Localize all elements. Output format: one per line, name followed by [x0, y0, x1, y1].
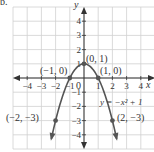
point-label-1-0: (1, 0): [100, 66, 122, 76]
point-label-2-neg3: (2, −3): [117, 113, 144, 123]
y-tick-label: −2: [71, 101, 81, 111]
curve-left-arrow-icon: [50, 132, 56, 140]
origin-label: 0: [76, 81, 81, 91]
y-tick-label: 3: [77, 30, 82, 40]
curve-right-arrow-icon: [112, 132, 118, 140]
x-tick-label: 4: [139, 81, 144, 91]
data-point: [110, 118, 115, 123]
data-point: [96, 76, 101, 81]
x-tick-label: 3: [124, 81, 129, 91]
y-axis-down-arrow-icon: [81, 142, 87, 149]
parabola-graph: −4−3−2−11234−4−3−2−11234: [0, 0, 154, 152]
y-tick-label: 2: [77, 45, 82, 55]
equation-label: y = −x² + 1: [100, 97, 142, 107]
x-tick-label: 2: [110, 81, 115, 91]
x-axis-label: x: [146, 80, 150, 90]
y-tick-label: −4: [71, 130, 81, 140]
y-tick-label: −3: [71, 116, 81, 126]
x-axis-left-arrow-icon: [13, 75, 20, 81]
data-point: [53, 118, 58, 123]
problem-label: b.: [0, 0, 8, 7]
y-axis-up-arrow-icon: [81, 7, 87, 14]
x-tick-label: −3: [37, 81, 47, 91]
y-tick-label: 4: [77, 16, 82, 26]
x-tick-label: −2: [51, 81, 61, 91]
x-tick-label: −4: [22, 81, 32, 91]
y-axis-label: y: [74, 0, 78, 10]
point-label-0-1: (0, 1): [86, 54, 108, 64]
point-label-neg2-neg3: (−2, −3): [6, 113, 39, 123]
data-point: [67, 76, 72, 81]
point-label-neg1-0: (−1, 0): [40, 66, 67, 76]
